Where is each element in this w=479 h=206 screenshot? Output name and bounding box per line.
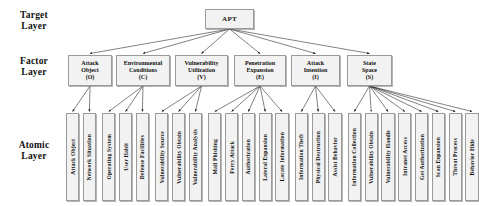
atomic-node-label: Information Theft [298,134,304,180]
atomic-node-label: Threat Process [452,138,458,176]
connector [202,29,230,54]
layer-label-factor: Factor Layer [6,56,62,78]
atomic-node-authorization[interactable]: Authorization [242,113,255,201]
atomic-node-locate-information[interactable]: Locate Information [275,113,288,201]
connector [370,86,405,112]
factor-node-code: (I) [312,74,318,81]
atomic-node-label: Physical Destruction [315,131,321,183]
connector [90,29,230,54]
connector [232,86,260,112]
factor-node-label: Attack Intention [304,60,328,74]
connector [316,86,319,112]
connector [73,86,90,112]
atomic-node-user-habit[interactable]: User Habit [119,113,132,201]
connector [162,86,202,112]
connector [370,86,473,112]
connector [354,86,369,112]
factor-node-label: Vulnerability Utilization [185,60,219,74]
atomic-node-assist-behavior[interactable]: Assist Behavior [328,113,341,201]
atomic-node-label: Behavior Hide [469,139,475,176]
atomic-node-vulnerability-source[interactable]: Vulnerability Source [155,113,168,201]
atomic-node-label: Attack Object [70,139,76,175]
atomic-node-label: Locate Information [279,132,285,181]
atomic-node-behavior-hide[interactable]: Behavior Hide [465,113,478,201]
atomic-node-label: User Habit [123,143,129,171]
atomic-node-information-collection[interactable]: Information Collection [348,113,361,201]
connector [370,86,439,112]
factor-node-attack-object[interactable]: Attack Object(O) [68,55,112,86]
atomic-node-label: Vulnerability Source [159,131,165,183]
connector [230,29,261,54]
atomic-node-lateral-expansion[interactable]: Lateral Expansion [259,113,272,201]
connector [143,29,230,54]
connector [89,86,90,112]
atomic-node-label: Vulnerability Obtain [176,131,182,184]
atomic-node-label: Vulnerability Analysis [192,129,198,185]
layer-label-atomic: Atomic Layer [6,140,62,162]
atomic-node-threat-process[interactable]: Threat Process [449,113,462,201]
factor-node-penetration-expansion[interactable]: Penetration Expansion(E) [234,55,286,86]
atomic-node-network-situation[interactable]: Network Situation [83,113,96,201]
connector [260,86,282,112]
layer-label-target: Target Layer [6,10,62,32]
connector [260,86,265,112]
connector [215,86,260,112]
atomic-node-label: Lateral Expansion [262,134,268,181]
atomic-node-ferry-attack[interactable]: Ferry Attack [225,113,238,201]
atomic-node-label: Mail Phishing [212,139,218,174]
atomic-node-label: Get Authorization [419,134,425,180]
atomic-node-label: Defense Facilities [139,135,145,179]
atomic-node-label: Ferry Attack [229,141,235,174]
connector [316,86,336,112]
node-apt-label: APT [222,15,237,23]
factor-node-code: (S) [366,74,373,81]
factor-node-state-space[interactable]: State Space(S) [347,55,392,86]
factor-node-environmental-conditions[interactable]: Environmental Conditions(C) [116,55,170,86]
atomic-node-label: Scan Expansion [435,137,441,177]
atomic-node-vulnerability-handle[interactable]: Vulnerability Handle [381,113,394,201]
atomic-node-label: Assist Behavior [332,137,338,176]
factor-node-vulnerability-utilization[interactable]: Vulnerability Utilization(V) [175,55,228,86]
atomic-node-label: Network Situation [86,134,92,181]
connector [370,86,372,112]
atomic-node-information-theft[interactable]: Information Theft [295,113,308,201]
connector [230,29,370,54]
atomic-node-vulnerability-obtain-2[interactable]: Vulnerability Obtain [365,113,378,201]
connector [248,86,260,112]
connector [142,86,143,112]
atomic-node-operating-system[interactable]: Operating System [102,113,115,201]
atomic-node-label: Vulnerability Obtain [368,131,374,184]
connector [370,86,422,112]
connector [195,86,201,112]
factor-node-code: (E) [256,74,264,81]
atomic-node-defense-facilities[interactable]: Defense Facilities [136,113,149,201]
atomic-node-vulnerability-analysis[interactable]: Vulnerability Analysis [189,113,202,201]
factor-node-label: Attack Object [81,60,98,74]
factor-node-attack-intention[interactable]: Attack Intention(I) [291,55,340,86]
node-apt[interactable]: APT [205,9,254,29]
factor-node-label: Environmental Conditions [124,60,163,74]
factor-node-code: (C) [139,74,147,81]
atomic-node-get-authorization[interactable]: Get Authorization [415,113,428,201]
factor-node-label: Penetration Expansion [245,60,275,74]
atomic-node-intranet-access[interactable]: Intranet Access [398,113,411,201]
atomic-node-physical-destruction[interactable]: Physical Destruction [312,113,325,201]
atomic-node-label: Information Collection [351,128,357,186]
atomic-node-attack-object-a[interactable]: Attack Object [66,113,79,201]
factor-node-code: (O) [86,74,95,81]
atomic-node-vulnerability-obtain-1[interactable]: Vulnerability Obtain [172,113,185,201]
connector [230,29,316,54]
factor-node-label: State Space [362,60,377,74]
atomic-node-label: Authorization [245,139,251,175]
connector [109,86,143,112]
connector [301,86,315,112]
factor-node-code: (V) [197,74,205,81]
connector [370,86,456,112]
connector [126,86,143,112]
atomic-node-mail-phishing[interactable]: Mail Phishing [208,113,221,201]
atomic-node-scan-expansion[interactable]: Scan Expansion [432,113,445,201]
atomic-node-label: Operating System [106,134,112,179]
atomic-node-label: Intranet Access [402,137,408,176]
atomic-node-label: Vulnerability Handle [385,130,391,183]
